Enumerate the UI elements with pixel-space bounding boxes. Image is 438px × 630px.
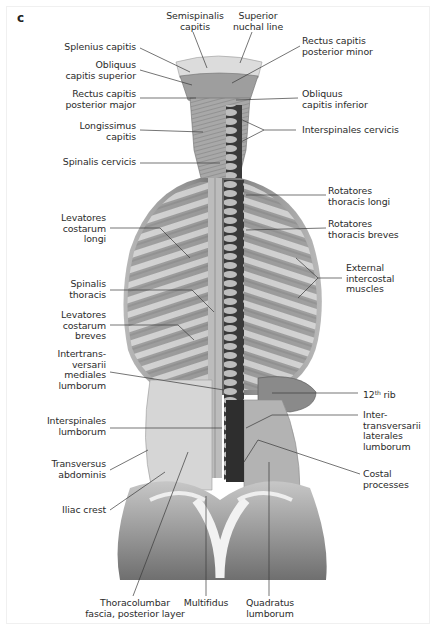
- label-quadratus-lumborum: Quadratus lumborum: [242, 598, 298, 619]
- label-interspinales-lumborum: Interspinales lumborum: [20, 416, 106, 437]
- label-costal-processes: Costal processes: [363, 469, 433, 490]
- label-12th-rib: 12th rib: [363, 388, 423, 401]
- label-splenius-capitis: Splenius capitis: [20, 42, 136, 53]
- label-rectus-capitis-posterior-major: Rectus capitis posterior major: [20, 89, 136, 110]
- label-intertransversarii-mediales-lumborum: Intertrans- versarii mediales lumborum: [20, 349, 106, 391]
- rib-number: 12: [363, 389, 375, 400]
- panel-letter: c: [17, 11, 24, 25]
- label-longissimus-capitis: Longissimus capitis: [20, 121, 136, 142]
- label-spinalis-thoracis: Spinalis thoracis: [20, 279, 106, 300]
- label-levatores-costarum-breves: Levatores costarum breves: [20, 310, 106, 342]
- label-iliac-crest: Iliac crest: [20, 505, 106, 516]
- label-multifidus: Multifidus: [176, 598, 236, 609]
- label-transversus-abdominis: Transversus abdominis: [20, 459, 106, 480]
- label-levatores-costarum-longi: Levatores costarum longi: [20, 213, 106, 245]
- label-obliquus-capitis-inferior: Obliquus capitis inferior: [302, 89, 412, 110]
- label-intertransversarii-laterales-lumborum: Inter- transversarii laterales lumborum: [363, 410, 433, 452]
- rib-word: rib: [381, 389, 396, 400]
- anatomy-figure: c Semispinalis capitis Superior nuchal l…: [0, 0, 438, 630]
- label-obliquus-capitis-superior: Obliquus capitis superior: [20, 60, 136, 81]
- label-spinalis-cervicis: Spinalis cervicis: [20, 157, 136, 168]
- label-rotatores-thoracis-breves: Rotatores thoracis breves: [328, 219, 428, 240]
- label-rotatores-thoracis-longi: Rotatores thoracis longi: [328, 186, 428, 207]
- label-semispinalis-capitis: Semispinalis capitis: [160, 11, 230, 32]
- label-superior-nuchal-line: Superior nuchal line: [226, 11, 290, 32]
- label-rectus-capitis-posterior-minor: Rectus capitis posterior minor: [302, 36, 412, 57]
- label-external-intercostal-muscles: External intercostal muscles: [346, 263, 428, 295]
- label-interspinales-cervicis: Interspinales cervicis: [302, 125, 428, 136]
- label-thoracolumbar-fascia: Thoracolumbar fascia, posterior layer: [80, 598, 190, 619]
